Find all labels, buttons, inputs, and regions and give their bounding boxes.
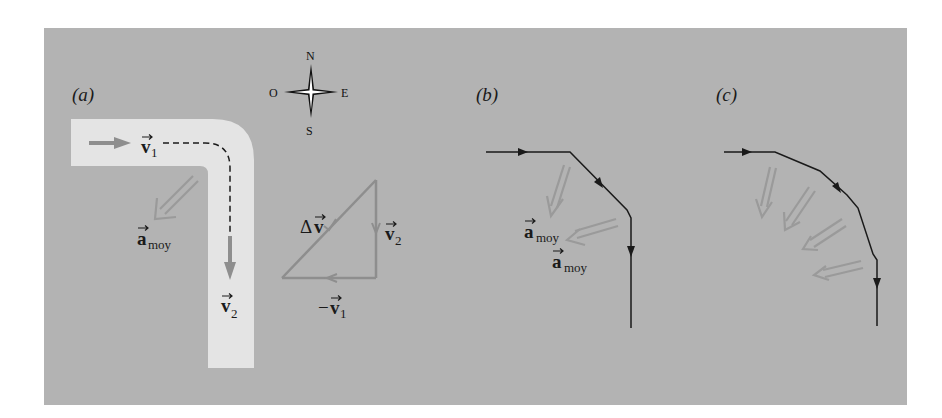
- svg-text:2: 2: [231, 306, 238, 321]
- svg-text:−: −: [318, 297, 329, 318]
- svg-text:1: 1: [151, 145, 158, 160]
- panel-a-label: (a): [72, 84, 94, 106]
- panel-b-label: (b): [476, 84, 498, 106]
- svg-text:moy: moy: [564, 260, 588, 275]
- svg-text:moy: moy: [148, 237, 172, 252]
- panel-c-label: (c): [716, 84, 737, 106]
- svg-text:moy: moy: [536, 230, 560, 245]
- compass-south: S: [306, 124, 313, 138]
- svg-text:a: a: [552, 251, 562, 272]
- svg-text:a: a: [524, 221, 534, 242]
- compass-east: E: [341, 86, 348, 100]
- svg-text:Δ: Δ: [300, 216, 312, 237]
- compass-north: N: [306, 49, 315, 63]
- svg-text:a: a: [137, 228, 147, 249]
- svg-text:2: 2: [395, 233, 402, 248]
- svg-text:1: 1: [340, 306, 347, 321]
- compass-west: O: [269, 86, 278, 100]
- acceleration-diagram: (a) v 1 v 2: [0, 0, 942, 418]
